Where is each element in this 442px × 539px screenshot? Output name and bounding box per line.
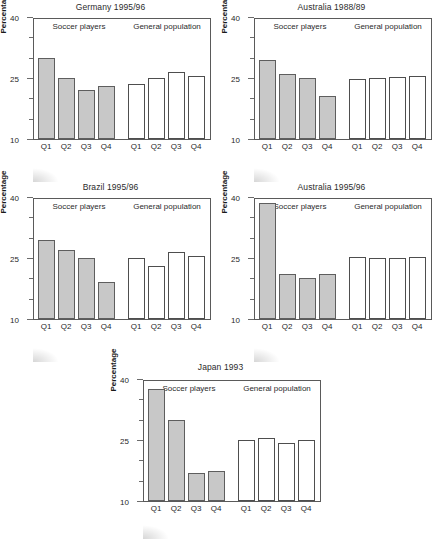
plot-area: Soccer players General population — [33, 198, 211, 320]
bar — [128, 258, 145, 319]
y-tick-label: 40 — [120, 376, 129, 385]
chart-title: Australia 1995/96 — [221, 182, 442, 192]
bar — [98, 282, 115, 319]
y-tick-label: 10 — [120, 498, 129, 507]
x-tick-label: Q3 — [387, 142, 407, 151]
x-tick-label: Q2 — [146, 142, 166, 151]
y-tick-label: 25 — [231, 255, 240, 264]
x-tick-label: Q2 — [277, 322, 297, 331]
bar — [259, 60, 276, 139]
x-tick-labels-soccer: Q1Q2Q3Q4 — [258, 322, 338, 334]
y-tick-label: 40 — [10, 194, 19, 203]
chart-title: Germany 1995/96 — [0, 2, 221, 12]
bar-group-soccer-players — [38, 197, 118, 319]
x-tick-labels-soccer: Q1Q2Q3Q4 — [37, 322, 117, 334]
x-tick-label: Q4 — [206, 504, 226, 513]
x-tick-labels-general: Q1Q2Q3Q4 — [237, 504, 317, 516]
bar-group-general-population — [128, 17, 208, 139]
y-tick-label: 25 — [10, 75, 19, 84]
y-tick-label: 10 — [231, 136, 240, 145]
x-tick-label: Q4 — [317, 142, 337, 151]
bar-group-soccer-players — [259, 17, 339, 139]
bar — [38, 240, 55, 319]
x-tick-label: Q3 — [76, 142, 96, 151]
x-tick-labels-soccer: Q1Q2Q3Q4 — [147, 504, 227, 516]
bar — [188, 473, 205, 501]
y-tick-label: 40 — [231, 14, 240, 23]
bar — [58, 250, 75, 319]
chart-title: Brazil 1995/96 — [0, 182, 221, 192]
bar — [369, 258, 386, 319]
y-tick-labels: 102540 — [221, 18, 248, 140]
chart-panel-germany: Germany 1995/96 Percentage 102540 Soccer… — [0, 0, 221, 180]
x-tick-label: Q1 — [347, 322, 367, 331]
y-tick-label: 25 — [120, 437, 129, 446]
plot-area: Soccer players General population — [254, 18, 432, 140]
x-tick-label: Q2 — [367, 142, 387, 151]
x-tick-label: Q4 — [296, 504, 316, 513]
x-tick-label: Q3 — [276, 504, 296, 513]
bar-group-general-population — [349, 197, 429, 319]
x-tick-label: Q3 — [387, 322, 407, 331]
bar — [409, 257, 426, 319]
bar — [188, 256, 205, 319]
x-tick-label: Q4 — [186, 322, 206, 331]
bar — [148, 78, 165, 139]
y-tick-label: 25 — [231, 75, 240, 84]
bar-group-soccer-players — [38, 17, 118, 139]
y-tick-labels: 102540 — [0, 18, 27, 140]
bar — [208, 471, 225, 502]
plot-area: Soccer players General population — [254, 198, 432, 320]
bar — [128, 84, 145, 139]
bar — [259, 203, 276, 319]
bar-group-soccer-players — [259, 197, 339, 319]
bar — [319, 96, 336, 139]
x-tick-label: Q2 — [166, 504, 186, 513]
x-tick-label: Q1 — [126, 322, 146, 331]
bar — [58, 78, 75, 139]
x-tick-label: Q4 — [407, 322, 427, 331]
x-tick-label: Q1 — [257, 142, 277, 151]
y-tick-labels: 102540 — [110, 380, 137, 502]
chart-panel-australia-1995: Australia 1995/96 Percentage 102540 Socc… — [221, 180, 442, 360]
bar — [279, 274, 296, 319]
bar — [168, 72, 185, 139]
x-tick-label: Q1 — [236, 504, 256, 513]
x-tick-label: Q1 — [36, 142, 56, 151]
x-tick-label: Q3 — [297, 322, 317, 331]
y-tick-label: 10 — [231, 316, 240, 325]
bar-group-general-population — [349, 17, 429, 139]
x-tick-label: Q3 — [166, 142, 186, 151]
bar — [279, 74, 296, 139]
bar — [38, 58, 55, 139]
scan-artifact — [143, 525, 169, 539]
x-tick-labels-soccer: Q1Q2Q3Q4 — [258, 142, 338, 154]
chart-panel-japan: Japan 1993 Percentage 102540 Soccer play… — [110, 358, 331, 537]
y-tick-labels: 102540 — [221, 198, 248, 320]
x-tick-label: Q2 — [56, 142, 76, 151]
bar — [278, 443, 295, 501]
bar — [148, 266, 165, 319]
y-tick-label: 40 — [231, 194, 240, 203]
y-tick-label: 40 — [10, 14, 19, 23]
bar — [78, 258, 95, 319]
x-tick-label: Q3 — [76, 322, 96, 331]
bar — [148, 389, 165, 501]
x-tick-label: Q2 — [256, 504, 276, 513]
x-tick-label: Q4 — [407, 142, 427, 151]
scan-artifact — [33, 348, 59, 362]
x-tick-labels-general: Q1Q2Q3Q4 — [127, 142, 207, 154]
bar — [349, 79, 366, 139]
x-tick-label: Q4 — [186, 142, 206, 151]
bar — [389, 77, 406, 139]
x-tick-label: Q1 — [347, 142, 367, 151]
bar — [369, 78, 386, 139]
chart-title: Japan 1993 — [110, 362, 331, 372]
y-tick-label: 10 — [10, 136, 19, 145]
x-tick-labels-general: Q1Q2Q3Q4 — [127, 322, 207, 334]
plot-area: Soccer players General population — [143, 380, 321, 502]
bar — [238, 440, 255, 501]
x-tick-label: Q3 — [186, 504, 206, 513]
x-tick-label: Q1 — [36, 322, 56, 331]
bar — [299, 78, 316, 139]
